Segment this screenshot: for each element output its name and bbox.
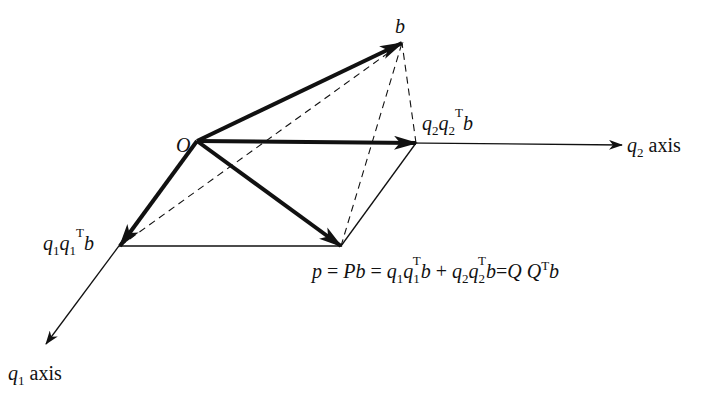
label-q2q2Tb: q2q2Tb: [422, 105, 473, 138]
label-q2-axis: q2axis: [627, 134, 681, 160]
vector-q2q2Tb: [197, 141, 416, 143]
label-b: b: [395, 15, 405, 37]
dashed-q2proj-to-b: [402, 43, 416, 143]
vector-b: [197, 43, 402, 141]
dashed-q1proj-to-b: [120, 43, 402, 246]
projection-diagram: O b q2q2Tb q2axis q1q1Tb q1axis p = Pb =…: [0, 0, 703, 396]
formula-projection: p = Pb = q1q1Tb + q2q2Tb=Q QTb: [310, 253, 559, 286]
label-q1-axis: q1axis: [8, 362, 62, 388]
label-origin: O: [176, 134, 190, 156]
edge-p-to-q2proj: [341, 143, 416, 246]
label-q1q1Tb: q1q1Tb: [43, 225, 94, 258]
vector-q1q1Tb: [120, 141, 197, 246]
vector-p: [197, 141, 341, 246]
